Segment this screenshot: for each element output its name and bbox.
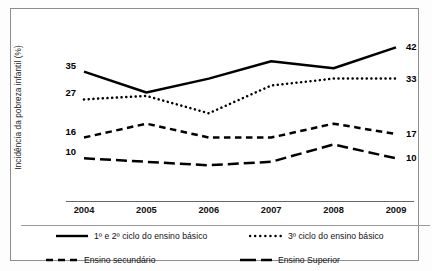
legend-item-ensino-superior[interactable]: Ensino Superior: [239, 253, 340, 267]
value-label-end-3: 10: [406, 152, 428, 163]
value-label-end-0: 42: [406, 41, 428, 52]
legend-swatch-dashed-icon: [45, 254, 79, 266]
chart-legend: 1º e 2º ciclo do ensino básico 3º ciclo …: [21, 227, 430, 271]
legend-item-ensino-secundario[interactable]: Ensino secundário: [45, 253, 156, 267]
y-axis-title-container: Incidência da pobreza infantil (%): [29, 19, 49, 189]
legend-divider: [21, 225, 430, 226]
legend-label: 1º e 2º ciclo do ensino básico: [94, 231, 207, 241]
plot-area: 3542273316171010: [66, 23, 414, 201]
legend-label: Ensino secundário: [84, 255, 156, 265]
series-line-3: [84, 144, 396, 165]
value-label-end-1: 33: [406, 73, 428, 84]
x-axis-tick-labels: 200420052006200720082009: [66, 205, 414, 221]
x-tick-label-2005: 2005: [124, 205, 168, 215]
series-line-0: [84, 47, 396, 92]
x-tick-label-2004: 2004: [62, 205, 106, 215]
x-axis-line: [66, 201, 414, 202]
x-tick-label-2008: 2008: [312, 205, 356, 215]
legend-swatch-dotted-icon: [249, 230, 283, 242]
x-tick-label-2009: 2009: [374, 205, 418, 215]
legend-swatch-long-dashed-icon: [239, 254, 273, 266]
legend-item-terceiro-ciclo[interactable]: 3º ciclo do ensino básico: [249, 229, 384, 243]
series-canvas: [66, 23, 414, 201]
chart-frame: Incidência da pobreza infantil (%) 35422…: [10, 8, 419, 261]
value-label-start-1: 27: [54, 87, 76, 98]
series-line-2: [84, 124, 396, 138]
x-tick-label-2007: 2007: [249, 205, 293, 215]
series-line-1: [84, 79, 396, 114]
chart-figure: Incidência da pobreza infantil (%) 35422…: [0, 0, 432, 271]
value-label-end-2: 17: [406, 128, 428, 139]
value-label-start-3: 10: [54, 146, 76, 157]
x-tick-label-2006: 2006: [187, 205, 231, 215]
legend-swatch-solid-icon: [55, 230, 89, 242]
value-label-start-2: 16: [54, 126, 76, 137]
value-label-start-0: 35: [54, 60, 76, 71]
legend-label: 3º ciclo do ensino básico: [288, 231, 384, 241]
legend-item-primeiro-e-segundo-ciclo[interactable]: 1º e 2º ciclo do ensino básico: [55, 229, 207, 243]
legend-label: Ensino Superior: [278, 255, 340, 265]
